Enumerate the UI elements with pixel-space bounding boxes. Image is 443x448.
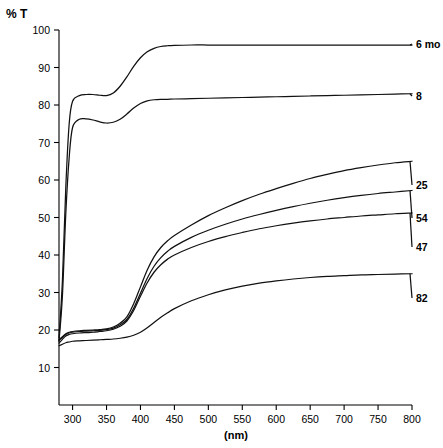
x-tick-label-800: 800 [403, 413, 421, 425]
x-tick-label-400: 400 [132, 413, 150, 425]
series-label-25: 25 [416, 179, 428, 191]
y-tick-label-50: 50 [38, 212, 50, 224]
curve-8 [59, 94, 412, 342]
y-tick-label-10: 10 [38, 362, 50, 374]
series-label-54: 54 [416, 212, 428, 224]
curve-group [59, 45, 412, 346]
x-tick-label-300: 300 [64, 413, 82, 425]
y-tick-label-70: 70 [38, 137, 50, 149]
series-label-group: 6 mo825544782 [416, 38, 441, 304]
x-axis-caption: (nm) [224, 429, 248, 441]
y-tick-label-30: 30 [38, 287, 50, 299]
leader-line-group [410, 44, 412, 298]
chart-svg: % T 102030405060708090100 30035040045050… [0, 0, 443, 448]
curve-25 [59, 161, 412, 339]
x-tick-label-550: 550 [234, 413, 252, 425]
leader-25 [410, 161, 412, 185]
x-tick-label-700: 700 [335, 413, 353, 425]
y-tick-label-20: 20 [38, 324, 50, 336]
curve-82 [59, 274, 412, 346]
leader-47 [410, 213, 412, 247]
x-tick-label-750: 750 [369, 413, 387, 425]
x-tick-label-350: 350 [98, 413, 116, 425]
curve-6-mo [59, 45, 412, 338]
series-label-47: 47 [416, 241, 428, 253]
y-tick-group: 102030405060708090100 [32, 24, 59, 374]
x-tick-label-650: 650 [301, 413, 319, 425]
y-tick-label-80: 80 [38, 99, 50, 111]
x-tick-label-450: 450 [166, 413, 184, 425]
series-label-82: 82 [416, 292, 428, 304]
x-tick-label-500: 500 [200, 413, 218, 425]
y-tick-label-100: 100 [32, 24, 50, 36]
y-axis-caption: % T [6, 7, 28, 21]
y-tick-label-90: 90 [38, 62, 50, 74]
leader-82 [410, 274, 412, 298]
curve-54 [59, 191, 412, 341]
x-tick-group: 300350400450500550600650700750800 [64, 405, 421, 425]
series-label-8: 8 [416, 90, 422, 102]
curve-47 [59, 213, 412, 343]
x-tick-label-600: 600 [267, 413, 285, 425]
y-tick-label-60: 60 [38, 174, 50, 186]
transmittance-chart: % T 102030405060708090100 30035040045050… [0, 0, 443, 448]
y-tick-label-40: 40 [38, 249, 50, 261]
series-label-6-mo: 6 mo [416, 38, 441, 50]
